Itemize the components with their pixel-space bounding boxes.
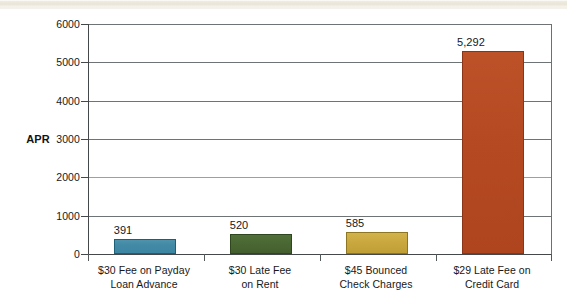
y-tick-mark [81,254,88,255]
y-tick-label: 2000 [36,172,80,183]
y-tick-label: 0 [36,249,80,260]
bar-fill [347,233,407,253]
bar-value-label: 520 [199,220,279,231]
x-category-label-late-fee-credit-card: $29 Late Fee on Credit Card [434,263,550,291]
x-tick-mark [436,254,437,261]
x-category-label-line: Loan Advance [86,277,202,291]
x-tick-mark [551,254,552,261]
scan-artifact-edge [0,7,567,9]
x-category-label-line: on Rent [202,277,318,291]
y-tick-label: 1000 [36,211,80,222]
y-axis-tick-labels: 6000 5000 4000 3000 2000 1000 0 [26,0,80,303]
scan-artifact-band [0,0,567,7]
bar-bounced-check-charges[interactable] [346,232,408,254]
x-category-label-late-fee-rent: $30 Late Fee on Rent [202,263,318,291]
y-tick-mark [81,177,88,178]
x-category-label-bounced-check-charges: $45 Bounced Check Charges [318,263,434,291]
bar-payday-loan-advance[interactable] [114,239,176,254]
y-tick-label: 4000 [36,96,80,107]
bar-value-label: 391 [83,225,163,236]
x-category-label-line: Credit Card [434,277,550,291]
x-category-label-line: Check Charges [318,277,434,291]
x-tick-mark [320,254,321,261]
gridline-6000 [89,24,551,25]
x-category-label-payday-loan-advance: $30 Fee on Payday Loan Advance [86,263,202,291]
y-tick-mark [81,24,88,25]
x-category-label-line: $30 Late Fee [202,263,318,277]
y-tick-label: 6000 [36,19,80,30]
bar-fill [115,240,175,253]
y-tick-mark [81,62,88,63]
y-tick-label: 5000 [36,57,80,68]
x-category-label-line: $45 Bounced [318,263,434,277]
bar-late-fee-rent[interactable] [230,234,292,254]
bar-late-fee-credit-card[interactable] [462,51,524,254]
apr-bar-chart: APR 6000 5000 4000 3000 2000 1000 0 [0,0,567,303]
bar-value-label: 5,292 [431,37,511,48]
x-tick-mark [88,254,89,261]
y-tick-label: 3000 [36,134,80,145]
bar-fill [463,52,523,253]
bar-value-label: 585 [315,218,395,229]
y-tick-mark [81,216,88,217]
bar-fill [231,235,291,253]
x-category-label-line: $30 Fee on Payday [86,263,202,277]
x-category-label-line: $29 Late Fee on [434,263,550,277]
y-tick-mark [81,101,88,102]
x-tick-mark [204,254,205,261]
y-tick-mark [81,139,88,140]
